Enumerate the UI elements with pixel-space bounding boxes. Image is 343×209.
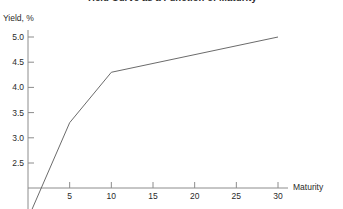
x-tick-marks [70,182,278,188]
plot-area: 2.53.03.54.04.55.0 51015202530 [0,0,343,209]
y-tick-marks [28,37,34,163]
x-tick-label: 5 [67,191,72,201]
series-line [31,37,278,209]
x-tick-label: 25 [232,191,242,201]
x-tick-labels: 51015202530 [67,191,283,201]
y-tick-label: 3.0 [12,133,24,143]
x-tick-label: 10 [107,191,117,201]
y-tick-label: 2.5 [12,158,24,168]
data-series-group [31,37,278,209]
y-tick-label: 5.0 [12,32,24,42]
y-axis-group [28,30,34,209]
x-axis-group [28,182,288,188]
x-tick-label: 20 [190,191,200,201]
x-tick-label: 30 [273,191,283,201]
y-tick-label: 3.5 [12,108,24,118]
y-tick-labels: 2.53.03.54.04.55.0 [12,32,24,168]
chart-screenshot: Yield Curve as a Function of Maturity Yi… [0,0,343,209]
y-tick-label: 4.5 [12,57,24,67]
x-tick-label: 15 [148,191,158,201]
y-tick-label: 4.0 [12,82,24,92]
